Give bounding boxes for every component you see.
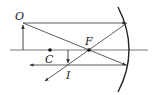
reflected-ray-through-focus [45,23,127,81]
image-label: I [65,69,71,82]
focus-point [87,48,91,52]
center-label: C [45,53,54,66]
ray-diagram: O F C I [0,0,154,95]
focus-label: F [84,35,93,48]
object-label: O [15,10,24,23]
concave-mirror [118,7,129,92]
center-point [48,48,52,52]
incident-ray-through-focus [23,23,126,65]
